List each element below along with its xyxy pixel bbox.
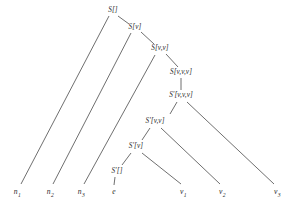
tree-leaf-subscript: 2 <box>51 192 54 198</box>
tree-edges-layer <box>0 0 289 208</box>
tree-edge-s1-n2 <box>53 33 131 184</box>
tree-node-p0: S'[] <box>111 168 122 175</box>
tree-node-p2: S'[v,v] <box>145 118 164 125</box>
tree-edge-p1-v1 <box>142 153 181 184</box>
tree-node-p1: S'[v] <box>129 143 143 150</box>
tree-leaf-base: v <box>180 187 183 196</box>
tree-leaf-subscript: 1 <box>18 192 21 198</box>
tree-node-p3: S'[v,v,v] <box>169 92 193 99</box>
tree-node-s2: S[v,v] <box>151 45 168 52</box>
tree-node-s1: S[v] <box>129 24 142 31</box>
tree-leaf-base: v <box>219 187 222 196</box>
tree-node-s0: S[] <box>108 7 118 14</box>
tree-edge-s1-s2 <box>141 32 154 44</box>
tree-node-s3: S[v,v,v] <box>170 69 192 76</box>
derivation-tree-diagram: S[]S[v]S[v,v]S[v,v,v]S'[v,v,v]S'[v,v]S'[… <box>0 0 289 208</box>
tree-leaf-subscript: 3 <box>82 192 85 198</box>
tree-leaf-subscript: 3 <box>278 192 281 198</box>
tree-leaf-subscript: 2 <box>223 192 226 198</box>
tree-edge-s2-n3 <box>84 55 155 184</box>
tree-leaf-base: e <box>112 187 115 196</box>
tree-leaf-subscript: 1 <box>184 192 187 198</box>
tree-edge-p2-p1 <box>142 128 150 140</box>
tree-leaf-v1: v1 <box>180 188 186 196</box>
tree-leaf-v2: v2 <box>219 188 225 196</box>
tree-edge-s0-n1 <box>21 16 109 184</box>
tree-edge-s0-s1 <box>118 16 129 24</box>
tree-edge-p3-v3 <box>187 102 274 184</box>
tree-leaf-e: e <box>112 188 115 196</box>
tree-leaf-n1: n1 <box>14 188 21 196</box>
tree-edge-p1-p0 <box>122 153 131 165</box>
tree-leaf-n3: n3 <box>78 188 85 196</box>
tree-edge-p0-e <box>114 177 115 185</box>
tree-leaf-n2: n2 <box>47 188 54 196</box>
tree-leaf-v3: v3 <box>274 188 280 196</box>
tree-leaf-base: v <box>274 187 277 196</box>
tree-edge-s2-s3 <box>166 54 178 67</box>
tree-edge-p3-p2 <box>170 102 177 114</box>
